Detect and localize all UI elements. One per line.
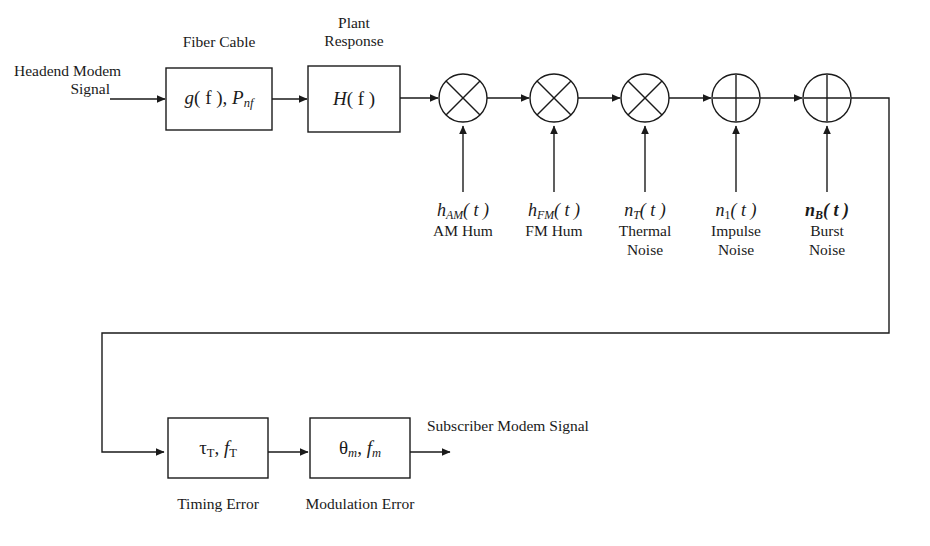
source-label-thermal-noise: nT( t ) Thermal Noise: [619, 200, 672, 259]
diagram-canvas: [0, 0, 930, 546]
source-label-impulse-noise: n1( t ) Impulse Noise: [711, 200, 761, 259]
caption-timing-error: Timing Error: [177, 495, 259, 513]
block-content-fiber-cable: g( f ), Pnf: [185, 87, 254, 112]
block-content-timing-error: τT, fT: [199, 437, 237, 462]
source-label-am-hum: hAM( t ) AM Hum: [433, 200, 493, 241]
heading-fiber-cable: Fiber Cable: [183, 33, 256, 51]
output-signal-label: Subscriber Modem Signal: [427, 417, 589, 435]
block-diagram: Headend Modem Signal Fiber Cable Plant R…: [0, 0, 930, 546]
block-content-modulation-error: θm, fm: [339, 437, 381, 462]
source-label-burst-noise: nB( t ) Burst Noise: [805, 200, 849, 259]
source-label-fm-hum: hFM( t ) FM Hum: [525, 200, 582, 241]
edge-feedback-wrap: [102, 98, 889, 452]
input-signal-label: Headend Modem Signal: [14, 62, 110, 99]
block-content-plant-response: H( f ): [333, 88, 375, 110]
heading-plant-response: Plant Response: [324, 14, 383, 51]
caption-modulation-error: Modulation Error: [306, 495, 415, 513]
